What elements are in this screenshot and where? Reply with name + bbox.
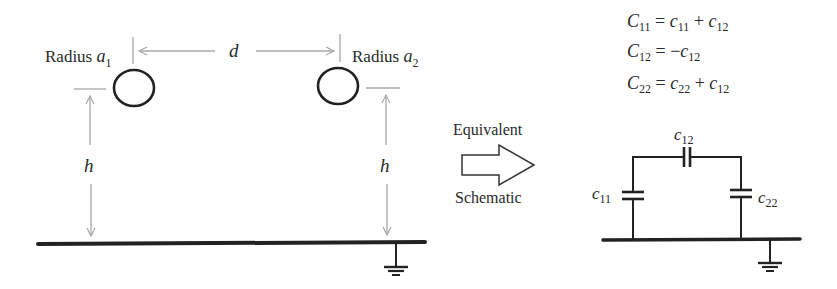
ground-plane [38,242,425,244]
equation-C11: C11 = c11 + c12 [627,11,728,34]
equivalent-schematic-transition: Equivalent Schematic [453,121,534,206]
equivalent-circuit: c12 c11 c22 [592,125,800,271]
c22-label: c22 [758,188,778,210]
conductor-1-circle [114,70,154,106]
ground-icon [384,243,408,275]
two-wire-capacitance-diagram: Radius a1 Radius a2 d h h [0,0,837,289]
schematic-label: Schematic [455,189,522,206]
capacitor-c12-icon [632,147,742,167]
h-label-right: h [380,155,390,176]
c12-label: c12 [674,125,694,147]
capacitor-c11-icon [622,156,644,240]
capacitance-equations: C11 = c11 + c12 C12 = −c12 C22 = c22 + c… [627,11,729,96]
c11-label: c11 [592,184,611,206]
radius-a2-label: Radius a2 [352,46,418,70]
h-label-left: h [84,155,94,176]
hollow-right-arrow-icon [462,145,534,185]
radius-a1-label: Radius a1 [45,46,111,70]
physical-geometry: Radius a1 Radius a2 d h h [38,34,425,275]
equation-C22: C22 = c22 + c12 [627,73,729,96]
conductor-2-circle [318,68,358,104]
ground-icon [758,239,782,271]
capacitor-c22-icon [730,156,752,239]
d-label: d [229,40,239,61]
equivalent-label: Equivalent [453,121,523,139]
equation-C12: C12 = −c12 [627,41,700,64]
